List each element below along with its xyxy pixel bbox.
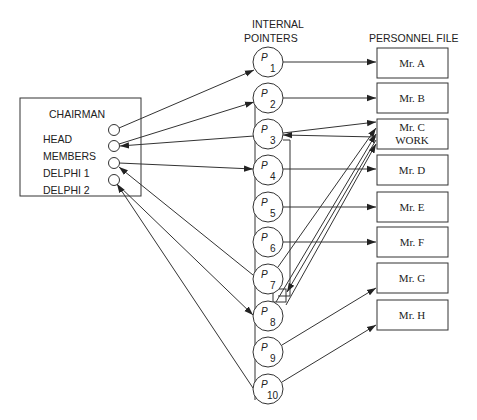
arrow-p3-mr-c xyxy=(283,122,376,133)
pointer-diagram: INTERNAL POINTERS PERSONNEL FILE CHAIRMA… xyxy=(0,0,477,420)
arrow-mr-c-junction xyxy=(287,140,376,292)
pointer-p8: P 8 xyxy=(253,301,283,331)
svg-text:P: P xyxy=(261,88,268,99)
header-pointers: POINTERS xyxy=(244,32,298,44)
port-delphi1 xyxy=(109,158,120,169)
svg-text:6: 6 xyxy=(270,243,276,254)
arrow-p9-mr-g xyxy=(282,288,376,345)
port-head xyxy=(109,125,120,136)
svg-text:Mr. F: Mr. F xyxy=(400,236,424,248)
svg-text:P: P xyxy=(261,52,268,63)
field-delphi1: DELPHI 1 xyxy=(43,167,90,179)
field-head: HEAD xyxy=(43,133,73,145)
svg-text:9: 9 xyxy=(270,353,276,364)
svg-text:P: P xyxy=(261,232,268,243)
svg-text:P: P xyxy=(261,306,268,317)
port-members xyxy=(109,141,120,152)
arrow-p10-delphi2 xyxy=(117,184,253,388)
record-mr-h: Mr. H xyxy=(377,300,448,330)
svg-text:2: 2 xyxy=(270,99,276,110)
arrow-p8-mr-c xyxy=(276,134,376,302)
svg-text:1: 1 xyxy=(270,63,276,74)
svg-text:Mr. G: Mr. G xyxy=(399,272,425,284)
svg-text:Mr. H: Mr. H xyxy=(399,309,425,321)
personnel-list: Mr. A Mr. B Mr. C WORK Mr. D Mr. E Mr. F… xyxy=(377,48,448,330)
svg-text:Mr. A: Mr. A xyxy=(399,57,425,69)
record-mr-g: Mr. G xyxy=(377,263,448,293)
svg-text:P: P xyxy=(261,342,268,353)
arrow-link-mr-c xyxy=(286,144,376,305)
svg-text:5: 5 xyxy=(270,208,276,219)
field-delphi2: DELPHI 2 xyxy=(43,184,90,196)
field-members: MEMBERS xyxy=(43,150,96,162)
pointer-list: P 1 P 2 P 3 P 4 P 5 P 6 P xyxy=(253,47,283,404)
record-mr-b: Mr. B xyxy=(377,83,448,113)
pointer-p4: P 4 xyxy=(253,155,283,185)
svg-text:P: P xyxy=(261,160,268,171)
pointer-p1: P 1 xyxy=(253,47,283,77)
arrow-p7-mr-c xyxy=(278,128,376,267)
record-mr-e: Mr. E xyxy=(377,192,448,222)
record-mr-f: Mr. F xyxy=(377,227,448,257)
pointer-p6: P 6 xyxy=(253,227,283,257)
record-mr-c: Mr. C WORK xyxy=(377,119,448,149)
svg-text:3: 3 xyxy=(270,135,276,146)
svg-text:Mr. D: Mr. D xyxy=(399,164,425,176)
arrow-p7-delphi1 xyxy=(119,167,253,275)
chairman-record: CHAIRMAN HEAD MEMBERS DELPHI 1 DELPHI 2 xyxy=(20,98,141,196)
svg-text:Mr. E: Mr. E xyxy=(399,201,424,213)
svg-text:Mr. B: Mr. B xyxy=(399,92,425,104)
pointer-p3: P 3 xyxy=(253,119,283,149)
chairman-title: CHAIRMAN xyxy=(49,108,105,120)
pointer-p7: P 7 xyxy=(253,264,283,294)
svg-text:P: P xyxy=(261,197,268,208)
svg-text:WORK: WORK xyxy=(395,134,429,146)
header-personnel-file: PERSONNEL FILE xyxy=(369,32,458,44)
port-delphi2 xyxy=(109,175,120,186)
svg-text:8: 8 xyxy=(270,317,276,328)
arrow-delphi2-p8 xyxy=(117,184,253,315)
svg-text:P: P xyxy=(261,269,268,280)
pointer-p5: P 5 xyxy=(253,192,283,222)
svg-text:4: 4 xyxy=(270,171,276,182)
svg-text:Mr. C: Mr. C xyxy=(399,121,425,133)
arrow-p10-mr-h xyxy=(282,325,376,382)
pointer-p10: P 10 xyxy=(253,374,283,404)
svg-text:P: P xyxy=(261,124,268,135)
header-internal: INTERNAL xyxy=(252,18,304,30)
arrow-mr-c-p3 xyxy=(283,135,376,137)
record-mr-a: Mr. A xyxy=(377,48,448,78)
svg-text:P: P xyxy=(261,379,268,390)
svg-text:7: 7 xyxy=(270,280,276,291)
pointer-p2: P 2 xyxy=(253,83,283,113)
svg-text:10: 10 xyxy=(267,390,279,401)
record-mr-d: Mr. D xyxy=(377,155,448,185)
pointer-p9: P 9 xyxy=(253,337,283,367)
